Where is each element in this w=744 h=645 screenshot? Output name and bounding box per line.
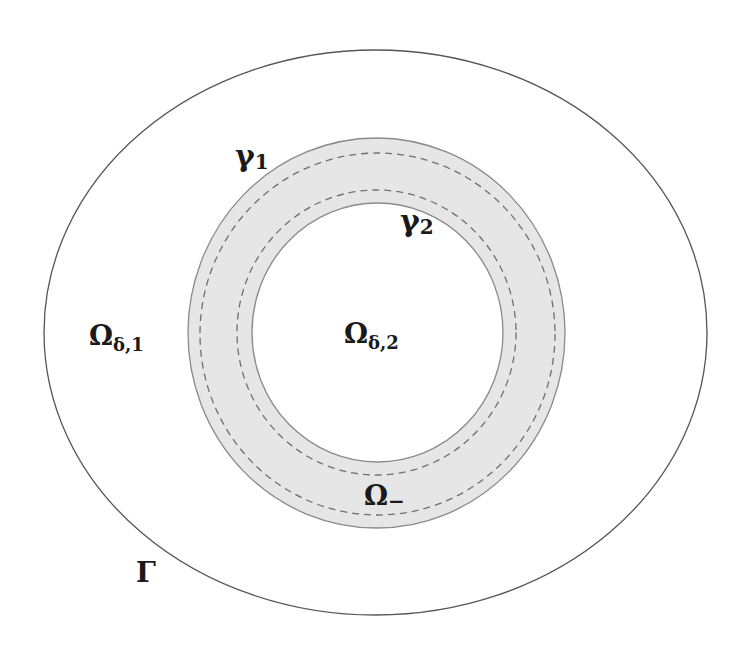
label-gamma1-sub: 1 <box>255 150 269 174</box>
domain-diagram: γ1 γ2 Ωδ,1 Ωδ,2 Ω− Γ <box>0 0 744 645</box>
label-omega-delta2-main: Ω <box>344 318 368 349</box>
label-omega-delta1-main: Ω <box>89 320 113 351</box>
label-omega-minus-sub: − <box>388 489 405 513</box>
label-gamma2-main: γ <box>400 203 420 238</box>
label-omega-delta2-sub: δ,2 <box>368 332 399 353</box>
label-Gamma: Γ <box>136 556 156 589</box>
label-gamma1: γ1 <box>235 138 269 174</box>
label-omega-delta1-sub: δ,1 <box>113 334 144 355</box>
label-omega-delta2: Ωδ,2 <box>344 318 399 353</box>
label-omega-delta1: Ωδ,1 <box>89 320 144 355</box>
label-gamma2-sub: 2 <box>420 215 434 239</box>
label-Gamma-main: Γ <box>136 556 156 589</box>
label-omega-minus-main: Ω <box>364 480 388 511</box>
label-gamma1-main: γ <box>235 138 255 173</box>
